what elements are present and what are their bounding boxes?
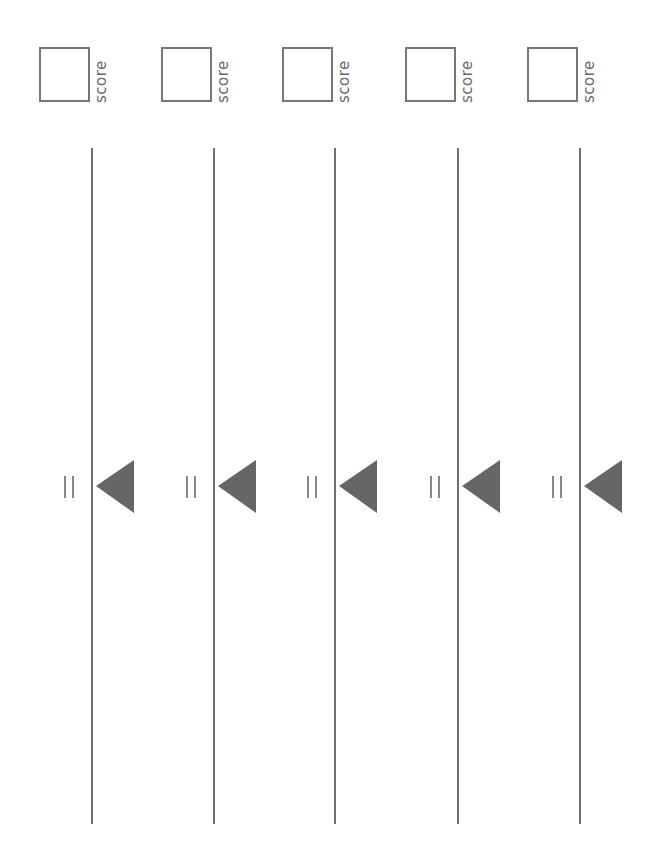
- number-line: [213, 148, 215, 824]
- number-line: [579, 148, 581, 824]
- score-column-2: score: [122, 0, 244, 862]
- score-label: score: [214, 47, 232, 103]
- score-column-5: score: [488, 0, 610, 862]
- number-line: [334, 148, 336, 824]
- score-box[interactable]: [161, 47, 212, 102]
- score-label: score: [580, 47, 598, 103]
- score-column-3: score: [243, 0, 365, 862]
- score-label: score: [335, 47, 353, 103]
- number-line: [91, 148, 93, 824]
- score-box[interactable]: [405, 47, 456, 102]
- score-column-1: score: [0, 0, 122, 862]
- score-box[interactable]: [39, 47, 90, 102]
- score-box[interactable]: [527, 47, 578, 102]
- equals-sign-icon: [64, 476, 76, 498]
- equals-sign-icon: [307, 476, 319, 498]
- equals-sign-icon: [552, 476, 564, 498]
- number-line: [457, 148, 459, 824]
- equals-sign-icon: [186, 476, 198, 498]
- score-column-4: score: [366, 0, 488, 862]
- score-box[interactable]: [282, 47, 333, 102]
- equals-sign-icon: [430, 476, 442, 498]
- score-label: score: [458, 47, 476, 103]
- triangle-left-icon: [583, 459, 623, 514]
- score-label: score: [92, 47, 110, 103]
